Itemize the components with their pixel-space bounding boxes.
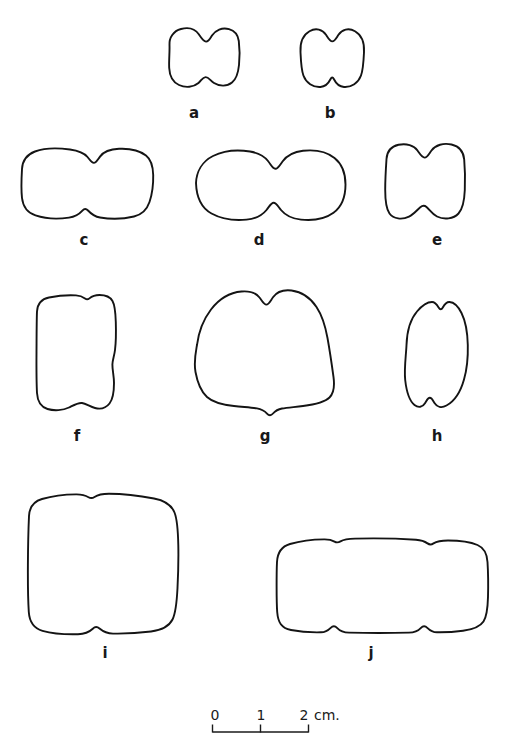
specimen-outline-h[interactable] [405, 302, 468, 407]
specimen-label-b: b [325, 106, 336, 121]
figure-plate: a b c d e f g h i j 0 1 2 cm. [0, 0, 507, 754]
scale-tick-label-1: 1 [257, 708, 266, 722]
scale-tick-label-2: 2 [300, 708, 309, 722]
specimen-outline-a[interactable] [169, 28, 239, 87]
specimen-outline-d[interactable] [196, 150, 346, 219]
specimen-outline-c[interactable] [21, 148, 153, 218]
specimen-outline-i[interactable] [28, 494, 179, 634]
specimen-label-c: c [80, 233, 89, 248]
scale-bar-tick-labels: 0 1 2 cm. [212, 708, 352, 728]
scale-tick-label-0: 0 [211, 708, 220, 722]
specimen-label-j: j [368, 646, 373, 661]
specimen-label-i: i [102, 646, 107, 661]
specimen-label-e: e [432, 233, 442, 248]
specimen-label-f: f [74, 429, 81, 444]
specimen-label-h: h [432, 429, 443, 444]
specimen-outlines-canvas [0, 0, 507, 754]
specimen-outline-g[interactable] [195, 290, 334, 415]
scale-unit-label: cm. [314, 708, 340, 722]
specimen-outline-b[interactable] [300, 29, 364, 87]
specimen-label-g: g [260, 429, 271, 444]
specimen-outline-f[interactable] [36, 295, 115, 410]
specimen-label-a: a [189, 106, 199, 121]
specimen-outline-j[interactable] [277, 538, 489, 633]
specimen-outline-e[interactable] [385, 144, 465, 219]
scale-bar: 0 1 2 cm. [212, 708, 352, 728]
specimen-label-d: d [254, 233, 265, 248]
